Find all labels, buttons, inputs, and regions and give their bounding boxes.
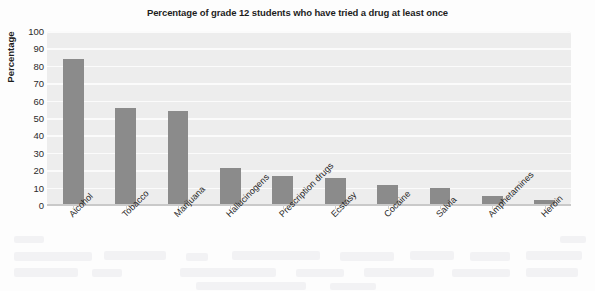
y-tick-label: 50	[16, 113, 44, 124]
x-tick-mark	[440, 205, 441, 209]
x-tick-mark	[388, 205, 389, 209]
x-tick-mark	[335, 205, 336, 209]
x-tick-mark	[73, 205, 74, 209]
y-tick-label: 20	[16, 165, 44, 176]
y-tick-label: 70	[16, 78, 44, 89]
y-tick-label: 80	[16, 60, 44, 71]
x-tick-mark	[545, 205, 546, 209]
bar	[115, 108, 136, 205]
chart-title: Percentage of grade 12 students who have…	[0, 7, 595, 18]
x-tick-mark	[283, 205, 284, 209]
y-tick-label: 40	[16, 130, 44, 141]
y-axis-tick-labels: 0102030405060708090100	[16, 28, 44, 208]
y-tick-label: 30	[16, 147, 44, 158]
bar	[168, 111, 189, 205]
y-tick-label: 90	[16, 43, 44, 54]
x-tick-mark	[126, 205, 127, 209]
y-tick-label: 60	[16, 95, 44, 106]
x-tick-mark	[230, 205, 231, 209]
y-axis-title: Percentage	[5, 12, 16, 102]
bar-chart-figure: Percentage of grade 12 students who have…	[0, 0, 595, 291]
y-tick-label: 100	[16, 26, 44, 37]
y-tick-label: 10	[16, 182, 44, 193]
bar	[63, 59, 84, 205]
x-tick-mark	[492, 205, 493, 209]
x-tick-mark	[178, 205, 179, 209]
y-tick-label: 0	[16, 200, 44, 211]
